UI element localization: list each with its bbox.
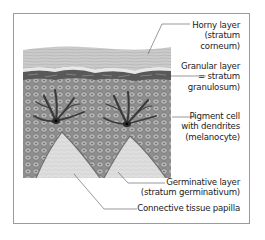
label-line: Horny layer xyxy=(192,20,240,30)
label-line: Granular layer xyxy=(181,61,240,71)
leader-papilla xyxy=(74,174,137,209)
label-line: (stratum germinativum) xyxy=(141,187,240,197)
label-line: corneum) xyxy=(192,41,240,51)
label-line: Pigment cell xyxy=(181,111,240,121)
horny-layer xyxy=(23,46,171,71)
label-pigment-cell: Pigment cell with dendrites (melanocyte) xyxy=(181,111,240,142)
label-horny-layer: Horny layer (stratum corneum) xyxy=(192,20,240,51)
label-line: with dendrites xyxy=(181,121,240,131)
label-line: = stratum xyxy=(181,71,240,81)
label-line: (melanocyte) xyxy=(181,132,240,142)
label-line: Germinative layer xyxy=(141,177,240,187)
label-germinative-layer: Germinative layer (stratum germinativum) xyxy=(141,177,240,198)
label-line: Connective tissue papilla xyxy=(137,203,240,213)
label-line: granulosum) xyxy=(181,82,240,92)
label-line: (stratum xyxy=(192,30,240,40)
label-granular-layer: Granular layer = stratum granulosum) xyxy=(181,61,240,92)
label-connective-tissue-papilla: Connective tissue papilla xyxy=(137,203,240,213)
